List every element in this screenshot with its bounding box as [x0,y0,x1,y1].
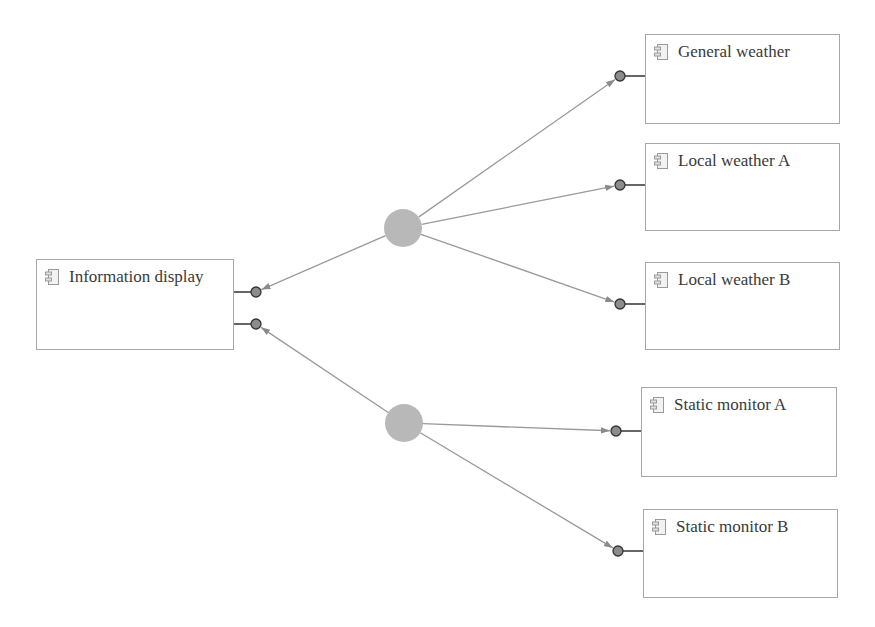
component-icon [654,153,668,169]
component-label: Static monitor A [674,396,786,414]
p-sma[interactable] [611,426,621,436]
component-label: General weather [678,43,790,61]
connector-hub-weather-p-gw[interactable] [419,79,616,217]
ports-layer [251,71,625,556]
component-static-monitor-a[interactable]: Static monitor A [641,387,837,477]
component-label: Local weather A [678,152,790,170]
component-local-weather-a[interactable]: Local weather A [645,143,840,231]
component-label: Local weather B [678,271,790,289]
connector-hub-weather-p-lwa[interactable] [422,186,614,224]
connector-hub-monitor-p-smb[interactable] [420,433,613,548]
p-lwb[interactable] [615,299,625,309]
connector-hub-weather-p-info-1[interactable] [262,236,386,290]
p-info-1[interactable] [251,287,261,297]
p-lwa[interactable] [615,180,625,190]
component-information-display[interactable]: Information display [36,259,234,350]
hub-weather[interactable] [384,209,422,247]
p-info-2[interactable] [251,319,261,329]
component-icon [654,44,668,60]
p-smb[interactable] [613,546,623,556]
component-header: Local weather A [646,152,839,170]
connector-hub-weather-p-lwb[interactable] [421,234,614,302]
component-local-weather-b[interactable]: Local weather B [645,262,840,350]
connector-hub-monitor-p-info-2[interactable] [261,327,388,412]
component-header: General weather [646,43,839,61]
component-header: Local weather B [646,271,839,289]
connector-hub-monitor-p-sma[interactable] [423,424,610,431]
hub-monitor[interactable] [385,404,423,442]
component-static-monitor-b[interactable]: Static monitor B [643,509,838,598]
component-label: Static monitor B [676,518,788,536]
connections-layer [261,79,615,547]
component-general-weather[interactable]: General weather [645,34,840,124]
component-icon [650,397,664,413]
component-header: Information display [37,268,233,286]
component-icon [652,519,666,535]
hubs-layer [384,209,423,442]
component-icon [45,269,59,285]
port-stubs-layer [234,76,645,551]
component-icon [654,272,668,288]
p-gw[interactable] [615,71,625,81]
component-header: Static monitor A [642,396,836,414]
component-header: Static monitor B [644,518,837,536]
component-label: Information display [69,268,204,286]
